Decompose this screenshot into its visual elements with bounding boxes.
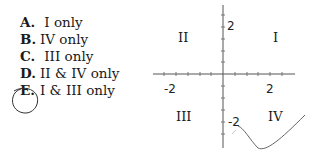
quadrant-ii-label: II (178, 31, 188, 45)
coordinate-plane (0, 0, 315, 162)
circle-mark-icon (12, 88, 37, 113)
quadrant-iv-label: IV (268, 110, 283, 124)
x-tick-label-neg2: -2 (164, 83, 176, 96)
quadrant-i-label: I (273, 31, 278, 45)
y-tick-label-2: 2 (227, 20, 235, 33)
quadrant-iii-label: III (176, 110, 191, 124)
faint-stroke (232, 130, 236, 134)
x-tick-label-2: 2 (266, 83, 274, 96)
y-tick-label-neg2: -2 (228, 116, 240, 129)
